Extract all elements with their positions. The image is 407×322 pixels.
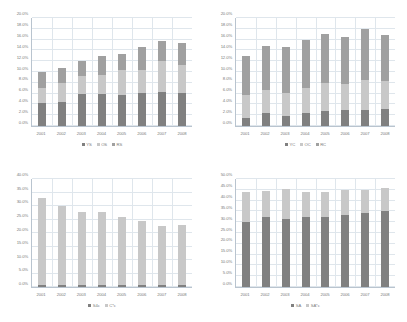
legend-swatch-icon <box>82 143 85 146</box>
legend-item[interactable]: SA <box>291 303 301 308</box>
stacked-bar[interactable] <box>178 18 186 126</box>
chart-legend: YCOCRC <box>204 142 407 147</box>
legend-item[interactable]: S4c <box>88 303 99 308</box>
stacked-bar[interactable] <box>98 18 106 126</box>
bar-segment <box>381 35 389 81</box>
legend-item[interactable]: OS <box>97 142 107 147</box>
legend-item[interactable]: SA*c <box>306 303 319 308</box>
stacked-bar[interactable] <box>118 179 126 287</box>
bar-segment <box>38 198 46 285</box>
bar-slot <box>296 18 316 126</box>
bar-slot <box>72 18 92 126</box>
bar-slot <box>375 18 395 126</box>
y-axis-tick-label: 8.0% <box>19 76 28 81</box>
stacked-bar[interactable] <box>361 18 369 126</box>
y-axis-tick-label: 8.0% <box>223 76 232 81</box>
stacked-bar[interactable] <box>381 179 389 287</box>
legend-label: OS <box>101 142 107 147</box>
bar-segment <box>138 93 146 126</box>
legend-swatch-icon <box>285 143 288 146</box>
chart-panel-top-left: 0.0%2.0%4.0%6.0%8.0%10.0%12.0%14.0%16.0%… <box>0 0 204 161</box>
bar-slot <box>335 18 355 126</box>
stacked-bar[interactable] <box>262 18 270 126</box>
stacked-bar[interactable] <box>302 18 310 126</box>
x-axis-labels: 20012002200320042005200620072008 <box>235 292 395 297</box>
stacked-bar[interactable] <box>321 18 329 126</box>
bar-slot <box>375 179 395 287</box>
legend-item[interactable]: C*c <box>105 303 116 308</box>
chart-panel-bottom-left: 0.0%5.0%10.0%15.0%20.0%25.0%30.0%35.0%40… <box>0 161 204 322</box>
stacked-bar[interactable] <box>361 179 369 287</box>
stacked-bar[interactable] <box>178 179 186 287</box>
bar-segment <box>138 47 146 71</box>
y-axis-tick-label: 0.0% <box>19 281 28 286</box>
bar-segment <box>78 61 86 76</box>
stacked-bar[interactable] <box>158 18 166 126</box>
bar-segment <box>302 113 310 126</box>
bar-segment <box>138 221 146 285</box>
y-axis-tick-label: 18.0% <box>221 21 232 26</box>
bar-segment <box>178 43 186 65</box>
y-axis-tick-label: 14.0% <box>221 43 232 48</box>
plot-frame <box>235 18 395 127</box>
stacked-bar[interactable] <box>302 179 310 287</box>
bar-slot <box>132 179 152 287</box>
y-axis-tick-label: 4.0% <box>19 98 28 103</box>
x-axis-labels: 20012002200320042005200620072008 <box>31 292 192 297</box>
bar-segment <box>341 110 349 126</box>
stacked-bar[interactable] <box>58 179 66 287</box>
y-axis-tick-label: 10.0% <box>17 253 28 258</box>
legend-item[interactable]: RC <box>316 142 326 147</box>
bar-segment <box>341 190 349 215</box>
chart-panel-top-right: 0.0%2.0%4.0%6.0%8.0%10.0%12.0%14.0%16.0%… <box>204 0 407 161</box>
bar-segment <box>242 95 250 118</box>
plot-area: 0.0%2.0%4.0%6.0%8.0%10.0%12.0%14.0%16.0%… <box>235 18 395 127</box>
bar-segment <box>262 191 270 217</box>
stacked-bar[interactable] <box>98 179 106 287</box>
bar-slot <box>335 179 355 287</box>
stacked-bar[interactable] <box>282 179 290 287</box>
stacked-bar[interactable] <box>242 18 250 126</box>
stacked-bar[interactable] <box>38 179 46 287</box>
bar-segment <box>361 190 369 213</box>
stacked-bar[interactable] <box>242 179 250 287</box>
y-axis-tick-label: 50.0% <box>221 172 232 177</box>
legend-item[interactable]: RS <box>112 142 122 147</box>
y-axis-tick-label: 12.0% <box>17 54 28 59</box>
y-axis-tick-label: 10.0% <box>221 65 232 70</box>
stacked-bar[interactable] <box>321 179 329 287</box>
bar-segment <box>178 225 186 285</box>
stacked-bar[interactable] <box>138 18 146 126</box>
y-axis-tick-label: 18.0% <box>17 21 28 26</box>
y-axis-tick-label: 2.0% <box>19 109 28 114</box>
bar-segment <box>242 192 250 222</box>
stacked-bar[interactable] <box>341 18 349 126</box>
stacked-bar[interactable] <box>78 18 86 126</box>
stacked-bar[interactable] <box>118 18 126 126</box>
stacked-bar[interactable] <box>78 179 86 287</box>
bar-segment <box>78 285 86 287</box>
bar-segment <box>98 285 106 287</box>
bar-slot <box>316 18 336 126</box>
y-axis-tick-label: 16.0% <box>221 32 232 37</box>
stacked-bar[interactable] <box>282 18 290 126</box>
legend-label: SA*c <box>311 303 320 308</box>
stacked-bar[interactable] <box>262 179 270 287</box>
stacked-bar[interactable] <box>341 179 349 287</box>
stacked-bar[interactable] <box>38 18 46 126</box>
stacked-bar[interactable] <box>381 18 389 126</box>
legend-item[interactable]: YS <box>82 142 92 147</box>
bar-segment <box>118 285 126 287</box>
bar-segment <box>158 226 166 285</box>
legend-item[interactable]: OC <box>300 142 311 147</box>
chart-legend: S4cC*c <box>0 303 204 308</box>
chart-legend: SASA*c <box>204 303 407 308</box>
stacked-bar[interactable] <box>58 18 66 126</box>
legend-item[interactable]: YC <box>285 142 295 147</box>
stacked-bar[interactable] <box>158 179 166 287</box>
x-axis-tick-label: 2005 <box>112 131 132 136</box>
bar-segment <box>78 94 86 126</box>
bar-segment <box>178 65 186 93</box>
stacked-bar[interactable] <box>138 179 146 287</box>
x-axis-tick-label: 2007 <box>355 292 375 297</box>
